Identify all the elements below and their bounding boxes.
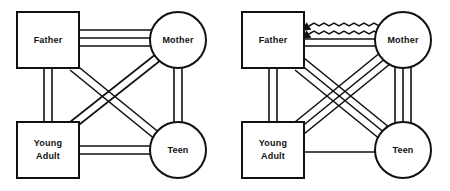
edge-father-young-adult <box>269 68 277 122</box>
node-young-adult-label-line2: Adult <box>261 151 285 161</box>
right-diagram-svg: Father Mother Young Adult Teen <box>225 0 450 191</box>
node-young-adult[interactable] <box>242 122 304 178</box>
figure-canvas: Father Mother Young Adult Teen <box>0 0 450 191</box>
edge-young-adult-mother-diagonal <box>295 52 390 134</box>
node-mother-label: Mother <box>162 35 193 45</box>
node-young-adult-label-line2: Adult <box>36 151 60 161</box>
left-diagram-panel: Father Mother Young Adult Teen <box>0 0 225 191</box>
left-diagram-svg: Father Mother Young Adult Teen <box>0 0 225 191</box>
left-nodes: Father Mother Young Adult Teen <box>17 12 206 178</box>
edge-mother-teen <box>395 66 411 124</box>
edge-mother-teen <box>174 68 182 122</box>
node-young-adult[interactable] <box>17 122 79 178</box>
node-teen-label: Teen <box>392 145 413 155</box>
right-diagram-panel: Father Mother Young Adult Teen <box>225 0 450 191</box>
node-young-adult-label-line1: Young <box>259 138 287 148</box>
edge-father-young-adult <box>44 68 52 122</box>
edge-father-teen-diagonal <box>70 64 161 140</box>
node-teen-label: Teen <box>167 145 188 155</box>
node-young-adult-label-line1: Young <box>34 138 62 148</box>
node-father-label: Father <box>34 35 63 45</box>
edge-young-adult-mother-diagonal <box>70 54 161 128</box>
node-father-label: Father <box>259 35 288 45</box>
node-mother-label: Mother <box>387 35 418 45</box>
edge-father-teen-diagonal <box>295 58 390 140</box>
